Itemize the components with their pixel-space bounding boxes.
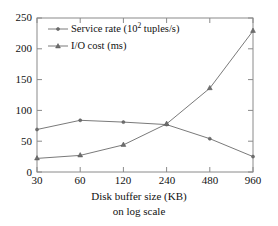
y-tick-label-50: 50 bbox=[2, 136, 32, 147]
x-tick-label-960: 960 bbox=[236, 175, 270, 186]
legend-entry-io-cost: I/O cost (ms) bbox=[71, 40, 126, 51]
series-service-rate bbox=[36, 119, 255, 158]
series-service-rate-markers bbox=[36, 119, 255, 158]
y-tick-label-100: 100 bbox=[2, 105, 32, 116]
x-tick-label-30: 30 bbox=[20, 175, 54, 186]
legend-label-service-rate-prefix: Service rate (10 bbox=[71, 23, 137, 34]
series-io-cost-markers bbox=[35, 28, 256, 160]
y-tick-label-250: 250 bbox=[2, 12, 32, 23]
chart-figure: 250 200 150 100 50 0 30 60 120 240 480 9… bbox=[0, 0, 278, 226]
axis-frame bbox=[37, 18, 253, 172]
y-tick-label-150: 150 bbox=[2, 74, 32, 85]
y-axis-ticks bbox=[37, 18, 253, 172]
x-tick-label-480: 480 bbox=[193, 175, 227, 186]
y-tick-label-200: 200 bbox=[2, 43, 32, 54]
legend-samples bbox=[48, 28, 68, 48]
legend-entry-service-rate: Service rate (102 tuples/s) bbox=[71, 23, 179, 34]
x-axis-subtitle: on log scale bbox=[0, 205, 278, 218]
legend-label-service-rate-suffix: tuples/s) bbox=[141, 23, 179, 34]
x-axis-ticks bbox=[37, 18, 253, 172]
x-axis-title: Disk buffer size (KB) bbox=[0, 190, 278, 203]
x-tick-label-240: 240 bbox=[150, 175, 184, 186]
x-tick-label-60: 60 bbox=[63, 175, 97, 186]
x-tick-label-120: 120 bbox=[106, 175, 140, 186]
series-io-cost bbox=[35, 28, 256, 160]
